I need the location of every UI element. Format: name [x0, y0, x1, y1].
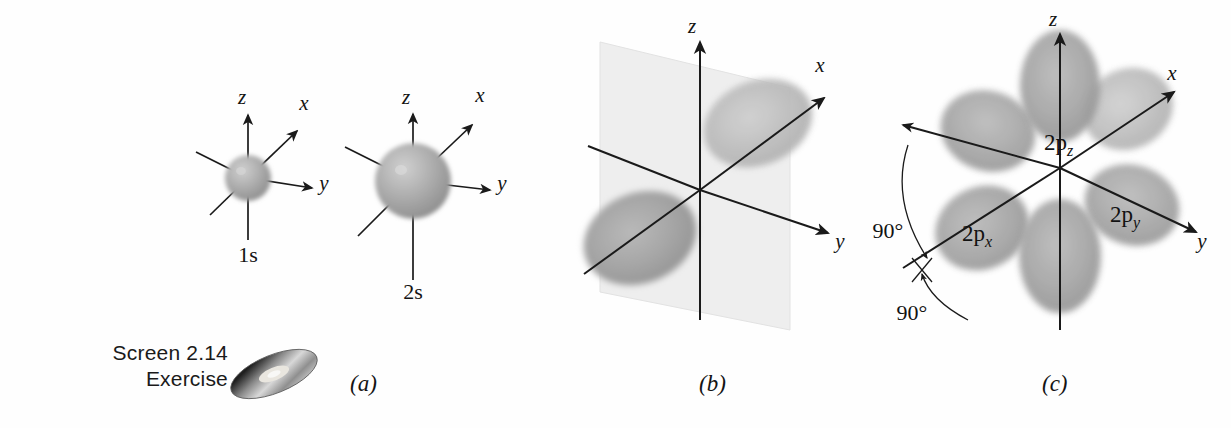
axis-label-z-1s: z — [237, 85, 246, 109]
orbital-label-1s: 1s — [238, 242, 258, 267]
axis-label-y-panel-b: y — [833, 229, 845, 253]
angle-label-upper: 90° — [873, 218, 904, 243]
axis-label-y-panel-c: y — [1195, 229, 1207, 253]
axis-label-z-panel-b: z — [687, 14, 696, 38]
orbital-label-2px-sub: x — [984, 233, 992, 250]
orbital-label-1s-text: 1s — [238, 242, 258, 267]
orbital-label-2pz-base: 2p — [1044, 130, 1067, 155]
axis-label-y-2s: y — [495, 171, 507, 195]
sphere-1s — [225, 155, 271, 201]
screen-note-line1: Screen 2.14 — [18, 340, 228, 366]
angle-arc-lower — [922, 274, 968, 320]
orbital-label-2py-base: 2p — [1110, 202, 1133, 227]
axis-label-y-1s: y — [317, 171, 329, 195]
orbital-label-2py-sub: y — [1131, 214, 1141, 232]
orbital-label-2s-text: 2s — [403, 279, 423, 304]
sphere-2s-highlight — [395, 165, 407, 175]
orbital-label-2s: 2s — [403, 279, 423, 304]
orbital-label-2pz-sub: z — [1066, 142, 1074, 159]
compact-disc-icon — [224, 339, 324, 409]
orbital-label-2px-base: 2p — [962, 221, 985, 246]
axis-label-x-panel-b: x — [814, 53, 825, 77]
panel-a-2s-orbital: z x y 2s — [345, 83, 507, 304]
axis-label-x-2s: x — [474, 83, 485, 107]
angle-label-lower: 90° — [897, 300, 928, 325]
panel-a-1s-orbital: z x y 1s — [196, 85, 329, 267]
panel-b-2p-orbital: z x y — [569, 14, 845, 330]
screen-exercise-note: Screen 2.14 Exercise — [18, 340, 228, 391]
axis-label-x-panel-c: x — [1166, 61, 1177, 85]
axis-label-z-panel-c: z — [1048, 7, 1057, 31]
angle-arc-upper — [902, 145, 927, 258]
figure-canvas: z x y 1s z x y 2s — [0, 0, 1231, 428]
screen-note-line2: Exercise — [18, 366, 228, 392]
sphere-2s — [375, 143, 451, 219]
panel-caption-c: (c) — [1042, 371, 1068, 397]
panel-c-three-2p-orbitals: z x y 2pz 2px 2py 90° 90° — [873, 7, 1208, 330]
panel-caption-b: (b) — [699, 371, 726, 397]
axis-label-z-2s: z — [401, 85, 410, 109]
panel-caption-a: (a) — [350, 371, 377, 397]
axis-label-x-1s: x — [298, 91, 309, 115]
sphere-1s-highlight — [236, 167, 246, 175]
